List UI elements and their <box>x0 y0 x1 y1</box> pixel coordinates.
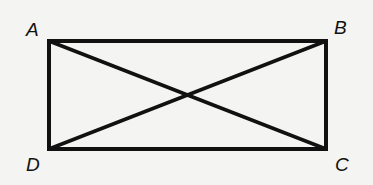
rectangle-diagram: A B C D <box>0 0 373 185</box>
vertex-label-b: B <box>334 17 347 38</box>
vertex-label-c: C <box>335 154 349 175</box>
vertex-label-d: D <box>26 154 40 175</box>
vertex-label-a: A <box>25 19 39 40</box>
